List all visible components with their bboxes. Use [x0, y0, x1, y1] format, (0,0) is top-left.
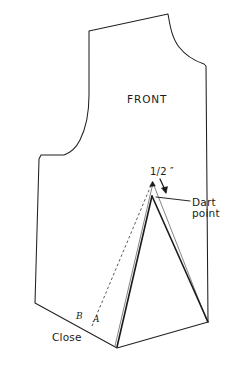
bodice-outline-path: [35, 14, 208, 348]
point-a-label: A: [93, 315, 100, 324]
pattern-drawing-svg: [0, 0, 233, 370]
half-inch-measure-label: 1/2 ″: [150, 167, 174, 178]
close-label: Close: [52, 332, 82, 343]
pattern-diagram-figure: FRONT 1/2 ″ Dart point B A Close: [0, 0, 233, 370]
front-label: FRONT: [127, 94, 167, 105]
dart-point-label-line2: point: [192, 208, 220, 219]
point-b-label: B: [76, 312, 83, 321]
